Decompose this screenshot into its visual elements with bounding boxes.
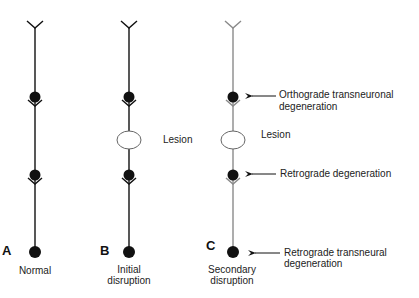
caption-c-line2: disruption (210, 275, 253, 286)
neuron-chain-a (27, 21, 43, 258)
lesion-label-c: Lesion (261, 129, 290, 140)
neuron-chain-b (117, 21, 141, 258)
panel-letter-a: A (2, 243, 11, 258)
neuron-chain-c (221, 21, 245, 258)
caption-c-line1: Secondary (208, 264, 256, 275)
neuron-soma-upper (30, 92, 41, 103)
lesion-label-b: Lesion (163, 134, 192, 145)
dendrite-fork-icon (225, 21, 241, 28)
neuron-soma-middle (30, 170, 41, 181)
neuron-soma-middle (228, 170, 239, 181)
annotation-retrograde: Retrograde degeneration (280, 168, 391, 179)
caption-b-line2: disruption (107, 275, 150, 286)
lesion-ellipse (221, 131, 245, 149)
lesion-ellipse (117, 131, 141, 149)
neuron-soma-upper (228, 92, 239, 103)
dendrite-fork-icon (121, 21, 137, 28)
neuron-soma-bottom (123, 246, 135, 258)
annotation-retro-trans-line1: Retrograde transneural (284, 247, 387, 258)
annotation-orthograde-line1: Orthograde transneuronal (279, 89, 394, 100)
caption-a: Normal (19, 265, 51, 276)
caption-b-line1: Initial (117, 264, 140, 275)
neuron-soma-upper (124, 92, 135, 103)
neuron-soma-bottom (29, 246, 41, 258)
panel-letter-b: B (100, 243, 109, 258)
annotation-orthograde-line2: degeneration (279, 101, 337, 112)
dendrite-fork-icon (27, 21, 43, 28)
neuron-soma-bottom (227, 246, 239, 258)
panel-letter-c: C (206, 238, 215, 253)
neuron-soma-middle (124, 170, 135, 181)
annotation-retro-trans-line2: degeneration (284, 258, 342, 269)
